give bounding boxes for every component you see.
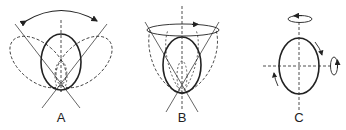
panel-label-a: A (57, 111, 66, 124)
in-plane-arrow-left-icon (274, 73, 278, 86)
vertical-rotation-loop (288, 16, 312, 23)
sweep-left-dashed (149, 30, 182, 94)
panel-label-c: C (294, 111, 303, 124)
tilted-right-ellipse (47, 26, 122, 98)
panel-a (1, 11, 122, 109)
panel-label-b: B (178, 111, 187, 124)
sweep-right-dashed (182, 30, 218, 94)
swing-arrow-icon (26, 11, 97, 22)
tilted-left-ellipse (1, 26, 76, 98)
panel-b (145, 6, 219, 112)
cone-top-ellipse (147, 24, 219, 36)
diagram-canvas: A B C (0, 0, 346, 130)
horizontal-rotation-loop (331, 57, 338, 75)
panel-c (263, 16, 338, 111)
